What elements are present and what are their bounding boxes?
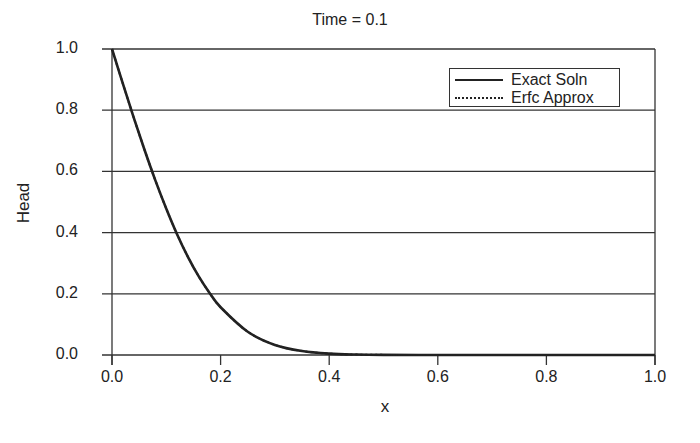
y-tick-label: 1.0 xyxy=(28,39,78,57)
legend-item-erfc-approx: Erfc Approx xyxy=(455,89,594,107)
x-tick-label: 0.0 xyxy=(82,368,142,386)
y-tick-label: 0.4 xyxy=(28,223,78,241)
dotted-line-swatch-icon xyxy=(455,97,503,99)
x-tick-label: 0.2 xyxy=(191,368,251,386)
y-tick-label: 0.8 xyxy=(28,100,78,118)
y-axis-label: Head xyxy=(14,183,34,224)
x-axis-label: x xyxy=(370,397,400,417)
legend-item-exact-soln: Exact Soln xyxy=(455,71,587,89)
y-tick-label: 0.0 xyxy=(28,345,78,363)
y-tick-label: 0.2 xyxy=(28,284,78,302)
x-tick-label: 1.0 xyxy=(625,368,685,386)
x-tick-label: 0.4 xyxy=(299,368,359,386)
legend-label: Erfc Approx xyxy=(511,89,594,107)
x-tick-label: 0.6 xyxy=(408,368,468,386)
chart-title: Time = 0.1 xyxy=(0,11,700,29)
solid-line-swatch-icon xyxy=(455,79,503,81)
legend: Exact Soln Erfc Approx xyxy=(449,68,620,107)
legend-label: Exact Soln xyxy=(511,71,587,89)
y-tick-label: 0.6 xyxy=(28,161,78,179)
x-tick-label: 0.8 xyxy=(516,368,576,386)
